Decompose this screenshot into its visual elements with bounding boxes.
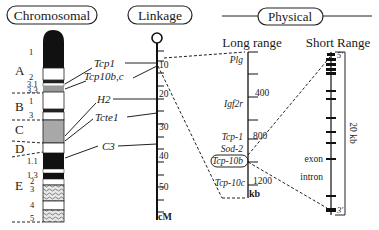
short-range-map: Short Range 5' 3' exon intron 20 kb xyxy=(300,35,370,215)
linkage-axis: 10 20 30 40 50 cM xyxy=(152,33,172,222)
region-b: B xyxy=(15,99,24,114)
region-c: C xyxy=(15,122,24,137)
linkage-unit: cM xyxy=(158,211,172,222)
linkage-tick-10: 10 xyxy=(159,60,169,70)
intron-label: intron xyxy=(300,172,323,182)
region-labels: A B C D E xyxy=(15,63,25,193)
physical-header: Physical xyxy=(222,8,372,25)
long-range-title: Long range xyxy=(222,35,282,50)
band-labels: 1 2 3.1 3.3 1 3 1.1 1.3 2 3 4 5 xyxy=(27,47,38,223)
gene-tcp10bc: Tcp10b,c xyxy=(84,70,124,82)
band-e5: 5 xyxy=(30,213,34,223)
linkage-tick-40: 40 xyxy=(159,151,169,161)
genetic-map-diagram: Chromosomal A B C D E xyxy=(0,0,379,230)
band-e3: 3 xyxy=(30,184,34,194)
gene-tcp1: Tcp1 xyxy=(94,57,115,69)
gene-tcp-1: Tcp-1 xyxy=(222,132,243,142)
gene-labels: Tcp1 Tcp10b,c H2 Tcte1 C3 xyxy=(84,57,124,152)
gene-sod-2: Sod-2 xyxy=(221,144,243,154)
gene-tcp-10b: Tcp-10b xyxy=(212,156,243,166)
linkage-tick-20: 20 xyxy=(159,89,169,99)
gene-igf2r: Igf2r xyxy=(223,99,243,109)
exon-label: exon xyxy=(305,154,324,164)
region-a: A xyxy=(15,63,25,78)
short-range-title: Short Range xyxy=(306,35,371,50)
region-d: D xyxy=(15,141,24,156)
span-label: 20 kb xyxy=(348,122,358,144)
band-e1-1: 1.1 xyxy=(27,156,38,166)
band-a1: 1 xyxy=(29,47,33,57)
band-a3-3: 3.3 xyxy=(27,85,38,95)
long-range-map: Long range 400 800 1200 kb Plg Igf2r Tcp… xyxy=(211,35,282,199)
gene-tcp-10c: Tcp-10c xyxy=(215,178,246,188)
linkage-header: Linkage xyxy=(128,6,192,24)
gene-h2: H2 xyxy=(96,93,111,105)
five-prime-label: 5' xyxy=(337,50,343,60)
band-b1: 1 xyxy=(29,96,33,106)
physical-title: Physical xyxy=(268,9,312,24)
long-range-tick-400: 400 xyxy=(255,88,270,98)
linkage-title: Linkage xyxy=(138,8,182,23)
gene-plg: Plg xyxy=(229,55,243,65)
chromosome-ideogram xyxy=(43,30,64,222)
long-range-unit: kb xyxy=(249,188,261,199)
chromosomal-title: Chromosomal xyxy=(14,8,91,23)
band-e4: 4 xyxy=(30,200,35,210)
band-b3: 3 xyxy=(29,110,33,120)
linkage-tick-30: 30 xyxy=(159,122,169,132)
gene-tcte1: Tcte1 xyxy=(95,111,118,123)
long-range-tick-1200: 1200 xyxy=(253,176,272,186)
region-e: E xyxy=(15,178,23,193)
chromosomal-header: Chromosomal xyxy=(7,6,97,24)
gene-c3: C3 xyxy=(102,140,115,152)
long-range-tick-800: 800 xyxy=(253,131,268,141)
three-prime-label: 3' xyxy=(336,205,343,215)
linkage-tick-50: 50 xyxy=(159,182,169,192)
